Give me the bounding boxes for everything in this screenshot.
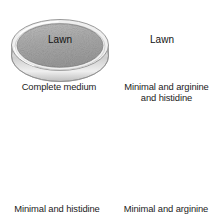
plate-caption-complete-medium: Complete medium xyxy=(6,82,112,93)
petri-dish-complete-medium xyxy=(12,20,109,82)
caption-line-1: Minimal and arginine xyxy=(112,82,221,93)
plate-caption-minimal-histidine: Minimal and histidine xyxy=(2,204,112,215)
replica-plating-diagram xyxy=(0,0,221,220)
caption-line-2: and histidine xyxy=(112,93,221,104)
lawn-label-complete-medium: Lawn xyxy=(12,34,108,45)
plate-caption-minimal-arginine-histidine: Minimal and arginine and histidine xyxy=(112,82,221,103)
bacterial-lawn-surface xyxy=(17,24,103,68)
plate-caption-minimal-arginine: Minimal and arginine xyxy=(111,204,221,215)
lawn-label-minimal-arginine-histidine: Lawn xyxy=(114,34,210,45)
